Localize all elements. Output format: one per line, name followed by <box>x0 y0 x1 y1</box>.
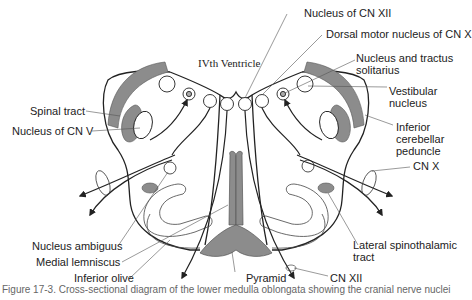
label-cn-x: CN X <box>413 160 440 172</box>
label-icp-line2: cerebellar <box>396 133 445 145</box>
label-lateral-spinothalamic-line2: tract <box>353 251 374 263</box>
spinal-tract-right <box>304 62 364 142</box>
label-nucleus-cn-v: Nucleus of CN V <box>12 125 94 137</box>
label-spinal-tract: Spinal tract <box>30 105 85 117</box>
label-nucleus-cn-xii: Nucleus of CN XII <box>304 7 391 19</box>
label-cn-xii: CN XII <box>330 272 362 284</box>
pyramids <box>200 151 272 256</box>
label-nucleus-ambiguus: Nucleus ambiguus <box>32 240 123 252</box>
label-ventricle: IVth Ventricle <box>198 57 261 69</box>
figure-caption: Figure 17-3. Cross-sectional diagram of … <box>2 284 451 295</box>
label-inferior-olive: Inferior olive <box>74 272 134 284</box>
label-vestibular-line2: nucleus <box>389 97 427 109</box>
label-dorsal-motor-nucleus: Dorsal motor nucleus of CN X <box>326 28 472 40</box>
label-lateral-spinothalamic-line1: Lateral spinothalamic <box>353 239 457 251</box>
label-icp-line1: Inferior <box>396 121 431 133</box>
medulla-cross-section-diagram: IVth Ventricle Nucleus of CN XII Dorsal … <box>0 0 472 300</box>
label-nts-line1: Nucleus and tractus <box>356 52 454 64</box>
label-medial-lemniscus: Medial lemniscus <box>36 256 121 268</box>
label-icp-line3: peduncle <box>396 145 441 157</box>
spinal-tract-left <box>108 62 168 142</box>
label-vestibular-line1: Vestibular <box>389 85 438 97</box>
label-pyramid: Pyramid <box>246 272 286 284</box>
label-nts-line2: solitarius <box>356 64 400 76</box>
